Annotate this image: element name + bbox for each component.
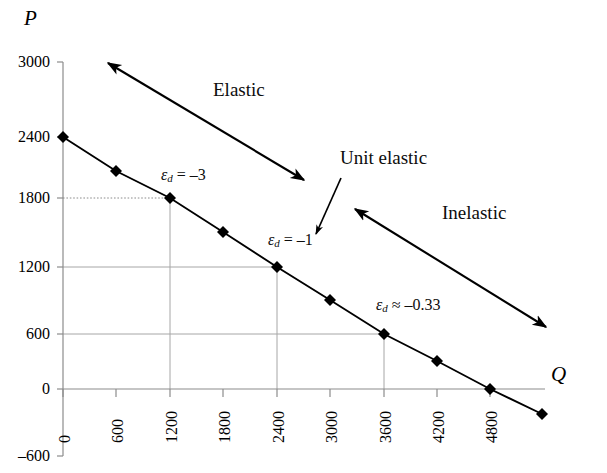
y-tick-label-0: 0 [0, 381, 50, 397]
unit-elastic-arrow [316, 178, 341, 234]
epsilon-relation: = [284, 231, 293, 248]
marker-q0 [57, 131, 69, 143]
x-tick-label-3000: 3000 [324, 411, 340, 443]
marker-q2400 [271, 261, 283, 273]
elasticity-label-minus1: εd= –1 [268, 232, 313, 249]
y-tick-label-neg600: –600 [0, 448, 50, 464]
annotation-elastic: Elastic [213, 80, 265, 99]
marker-q5400 [536, 408, 548, 420]
axes [57, 62, 545, 456]
x-tick-label-4800: 4800 [484, 411, 500, 443]
y-axis-title: P [24, 8, 37, 29]
y-tick-label-2400: 2400 [0, 129, 50, 145]
elasticity-demand-chart: P Q 3000 2400 1800 1200 600 0 –600 0 600… [0, 0, 607, 473]
y-tick-label-600: 600 [0, 326, 50, 342]
epsilon-subscript: d [382, 302, 388, 314]
marker-q4800 [484, 383, 496, 395]
epsilon-subscript: d [274, 237, 280, 249]
marker-q600 [110, 165, 122, 177]
elastic-arrow [108, 63, 304, 180]
y-tick-label-1200: 1200 [0, 259, 50, 275]
epsilon-relation: ≈ [392, 296, 401, 313]
x-tick-label-1800: 1800 [217, 411, 233, 443]
annotation-inelastic: Inelastic [442, 203, 506, 222]
epsilon-value: –0.33 [405, 296, 441, 313]
marker-q3000 [324, 294, 336, 306]
demand-markers [57, 131, 548, 420]
marker-q1800 [217, 226, 229, 238]
x-tick-label-1200: 1200 [164, 411, 180, 443]
x-tick-label-2400: 2400 [271, 411, 287, 443]
marker-q1200 [164, 192, 176, 204]
epsilon-value: –1 [297, 231, 313, 248]
x-tick-label-600: 600 [110, 419, 126, 443]
demand-curve [57, 131, 548, 420]
elasticity-label-minus033: εd≈ –0.33 [376, 297, 441, 314]
annotation-unit-elastic: Unit elastic [340, 148, 427, 167]
y-axis-ticks [57, 62, 63, 456]
marker-q3600 [378, 328, 390, 340]
x-tick-label-3600: 3600 [378, 411, 394, 443]
epsilon-value: –3 [190, 166, 206, 183]
epsilon-subscript: d [167, 172, 173, 184]
marker-q4200 [431, 355, 443, 367]
y-tick-label-1800: 1800 [0, 190, 50, 206]
epsilon-relation: = [177, 166, 186, 183]
x-tick-label-4200: 4200 [431, 411, 447, 443]
elasticity-label-minus3: εd= –3 [161, 167, 206, 184]
y-tick-label-3000: 3000 [0, 54, 50, 70]
x-axis-title: Q [551, 364, 566, 385]
x-axis-ticks [63, 389, 490, 397]
x-tick-label-0: 0 [57, 435, 73, 443]
